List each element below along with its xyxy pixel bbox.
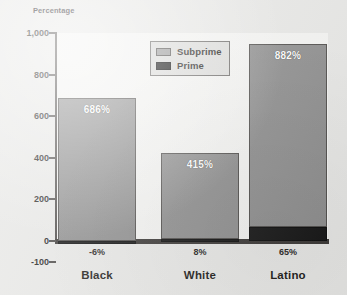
bar-group[interactable]: 686%-6%Black	[58, 0, 136, 295]
y-tick-mark	[49, 157, 56, 159]
bar-segment-subprime[interactable]	[249, 44, 327, 227]
x-axis-category-label: Latino	[235, 269, 341, 281]
y-tick-mark	[49, 32, 56, 34]
bar-chart: Percentage 1,0008006004002000-100 686%-6…	[0, 0, 347, 295]
y-axis-line	[55, 32, 57, 243]
bar-segment-prime[interactable]	[249, 227, 327, 241]
legend-label-prime: Prime	[177, 60, 204, 71]
bar-segment-prime[interactable]	[161, 239, 239, 242]
y-tick-mark	[49, 198, 56, 200]
y-tick-label: 400	[0, 153, 49, 163]
y-tick-mark	[49, 74, 56, 76]
y-tick-label: -100	[0, 257, 49, 267]
x-axis-category-label: Black	[44, 269, 150, 281]
y-tick-mark	[49, 261, 56, 263]
y-tick-mark	[49, 115, 56, 117]
y-tick-mark	[49, 240, 56, 242]
chart-legend: Subprime Prime	[150, 41, 230, 76]
y-tick-label: 0	[0, 236, 49, 246]
y-tick-label: 600	[0, 111, 49, 121]
bar-value-label-subprime: 415%	[161, 159, 239, 170]
legend-item-prime: Prime	[156, 60, 222, 71]
bar-value-label-prime: -6%	[58, 247, 136, 257]
bar-value-label-subprime: 882%	[249, 50, 327, 61]
bar-group[interactable]: 882%65%Latino	[249, 0, 327, 295]
prime-swatch-icon	[156, 62, 171, 70]
y-tick-label: 1,000	[0, 28, 49, 38]
legend-label-subprime: Subprime	[177, 46, 222, 57]
bar-segment-subprime[interactable]	[58, 98, 136, 241]
bar-value-label-subprime: 686%	[58, 104, 136, 115]
subprime-swatch-icon	[156, 48, 171, 56]
bar-value-label-prime: 65%	[249, 247, 327, 257]
legend-item-subprime: Subprime	[156, 46, 222, 57]
bar-segment-prime[interactable]	[58, 241, 136, 244]
y-tick-label: 800	[0, 70, 49, 80]
y-tick-label: 200	[0, 194, 49, 204]
bar-value-label-prime: 8%	[161, 247, 239, 257]
